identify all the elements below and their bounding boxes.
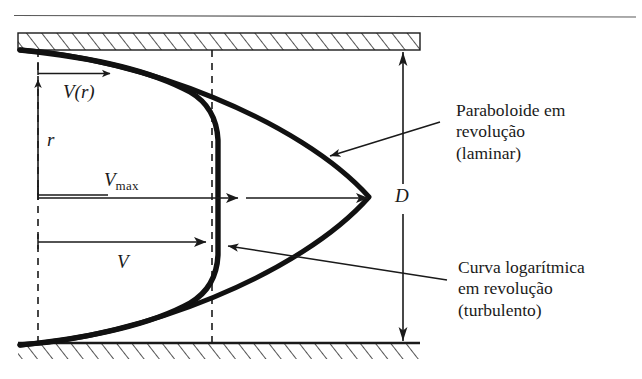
figure-canvas — [0, 0, 642, 379]
hatched-pipe-wall-top — [18, 33, 420, 50]
turbulent-annotation-line-3: (turbulento) — [458, 300, 585, 321]
pipe-velocity-profile-figure: V(r) r Vmax V D Paraboloide em revolução… — [0, 0, 642, 379]
radius-label: r — [47, 128, 54, 151]
vmax-symbol: V — [104, 169, 116, 190]
laminar-annotation: Paraboloide em revolução (laminar) — [456, 100, 565, 164]
hatched-pipe-wall-bottom — [18, 343, 420, 360]
turbulent-annotation-line-2: em revolução — [458, 278, 585, 299]
mean-velocity-label: V — [117, 250, 129, 273]
laminar-annotation-line-3: (laminar) — [456, 143, 565, 164]
vmax-subscript: max — [116, 178, 139, 193]
turbulent-annotation-line-1: Curva logarítmica — [458, 257, 585, 278]
laminar-annotation-line-2: revolução — [456, 121, 565, 142]
velocity-profile-label: V(r) — [63, 80, 95, 103]
turbulent-annotation: Curva logarítmica em revolução (turbulen… — [458, 257, 585, 321]
laminar-annotation-line-1: Paraboloide em — [456, 100, 565, 121]
laminar-leader-line — [330, 122, 440, 156]
mean-velocity-arrow — [38, 234, 206, 249]
top-rule — [14, 16, 636, 18]
diameter-label: D — [392, 184, 412, 207]
vmax-label: Vmax — [104, 168, 139, 193]
